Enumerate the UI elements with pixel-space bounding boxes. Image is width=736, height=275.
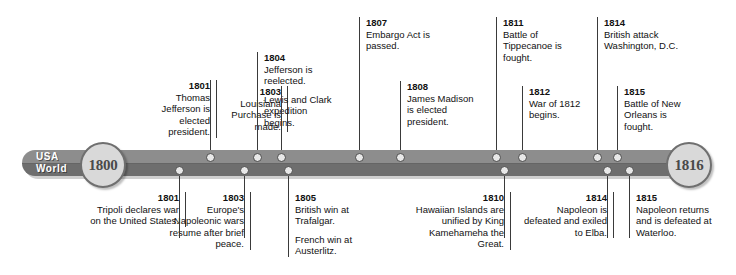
event-year: 1811 — [503, 17, 573, 29]
timeline-bar: USA World 1800 1816 — [22, 150, 702, 176]
event-connector-line — [288, 171, 289, 238]
event-text: Thomas Jefferson is elected president. — [162, 92, 210, 138]
event-paragraph: 1807Embargo Act is passed. — [366, 17, 444, 52]
timeline-tick-dot — [175, 166, 184, 175]
event-text: Europe's Napoleonic wars resume after br… — [170, 204, 244, 250]
event-connector-line — [210, 80, 211, 155]
event-connector-line — [179, 171, 180, 238]
event-year: 1815 — [636, 192, 722, 204]
event-year: 1807 — [366, 17, 444, 29]
timeline-tick-dot — [500, 166, 509, 175]
event-year: 1812 — [529, 86, 591, 98]
event-paragraph: Lewis and Clark expedition begins. — [264, 94, 334, 129]
timeline-event-world-1810: 1810Hawaiian Islands are unified by King… — [406, 192, 511, 250]
timeline-event-usa-1812: 1812War of 1812 begins. — [522, 86, 591, 121]
timeline-event-usa-1811: 1811Battle of Tippecanoe is fought. — [496, 17, 573, 63]
event-text: British win at Trafalgar. — [295, 204, 349, 227]
event-connector-line — [607, 171, 608, 238]
event-connector-line — [400, 81, 401, 155]
event-text: British attack Washington, D.C. — [604, 29, 678, 52]
event-text: Napoleon is defeated and exiled to Elba. — [524, 204, 607, 238]
timeline-figure: 1801Thomas Jefferson is elected presiden… — [0, 0, 736, 275]
event-paragraph: 1814British attack Washington, D.C. — [604, 17, 686, 52]
event-year: 1803 — [162, 192, 244, 204]
event-year: 1805 — [295, 192, 381, 204]
event-paragraph: 1810Hawaiian Islands are unified by King… — [406, 192, 504, 250]
event-paragraph: 1811Battle of Tippecanoe is fought. — [503, 17, 573, 63]
event-paragraph: 1803Europe's Napoleonic wars resume afte… — [162, 192, 244, 250]
event-year: 1814 — [519, 192, 607, 204]
event-year: 1814 — [604, 17, 686, 29]
timeline-tick-dot — [284, 166, 293, 175]
timeline-event-world-1803: 1803Europe's Napoleonic wars resume afte… — [162, 192, 251, 250]
timeline-tick-dot — [240, 166, 249, 175]
timeline-tick-dot — [253, 153, 262, 162]
event-connector-line — [504, 171, 505, 238]
timeline-event-usa-1807: 1807Embargo Act is passed. — [359, 17, 444, 52]
event-paragraph: 1814Napoleon is defeated and exiled to E… — [519, 192, 607, 238]
event-paragraph: 1815Napoleon returns and is defeated at … — [636, 192, 722, 238]
event-paragraph: 1804Jefferson is reelected. — [264, 52, 334, 87]
timeline-tick-dot — [355, 153, 364, 162]
event-connector-line — [629, 171, 630, 238]
event-text: Lewis and Clark expedition begins. — [264, 94, 332, 128]
start-year-label: 1800 — [89, 157, 118, 174]
event-text: James Madison is elected president. — [407, 93, 474, 127]
event-connector-line — [281, 86, 282, 155]
timeline-event-world-1815: 1815Napoleon returns and is defeated at … — [629, 192, 722, 238]
event-paragraph: 1808James Madison is elected president. — [407, 81, 479, 127]
timeline-tick-dot — [593, 153, 602, 162]
event-text: Battle of New Orleans is fought. — [624, 98, 681, 132]
event-text: Embargo Act is passed. — [366, 29, 430, 52]
event-paragraph: 1815Battle of New Orleans is fought. — [624, 86, 686, 132]
event-text: Jefferson is reelected. — [264, 64, 312, 87]
timeline-event-usa-1801: 1801Thomas Jefferson is elected presiden… — [148, 80, 217, 138]
event-year: 1810 — [406, 192, 504, 204]
start-year-badge: 1800 — [80, 142, 126, 188]
end-year-label: 1816 — [675, 157, 704, 174]
event-paragraph: 1805British win at Trafalgar. — [295, 192, 381, 227]
timeline-tick-dot — [206, 153, 215, 162]
event-connector-line — [597, 17, 598, 155]
event-year: 1815 — [624, 86, 686, 98]
event-connector-line — [496, 17, 497, 155]
event-year: 1804 — [264, 52, 334, 64]
timeline-event-usa-1804: 1804Jefferson is reelected.Lewis and Cla… — [257, 52, 334, 128]
timeline-tick-dot — [277, 153, 286, 162]
event-connector-line — [617, 86, 618, 155]
event-connector-line — [257, 52, 258, 155]
timeline-tick-dot — [603, 166, 612, 175]
event-connector-line — [359, 17, 360, 155]
event-year: 1808 — [407, 81, 479, 93]
timeline-tick-dot — [625, 166, 634, 175]
end-year-badge: 1816 — [666, 142, 712, 188]
timeline-tick-dot — [518, 153, 527, 162]
timeline-tick-dot — [492, 153, 501, 162]
timeline-tick-dot — [613, 153, 622, 162]
event-text: Napoleon returns and is defeated at Wate… — [636, 204, 712, 238]
event-text: Battle of Tippecanoe is fought. — [503, 29, 562, 63]
event-text: French win at Austerlitz. — [295, 234, 352, 257]
event-paragraph: 1812War of 1812 begins. — [529, 86, 591, 121]
event-connector-line — [522, 86, 523, 155]
event-connector-line — [244, 171, 245, 238]
timeline-event-world-1805: 1805British win at Trafalgar.French win … — [288, 192, 381, 257]
timeline-event-usa-1808: 1808James Madison is elected president. — [400, 81, 479, 127]
event-paragraph: 1801Thomas Jefferson is elected presiden… — [148, 80, 210, 138]
timeline-event-usa-1815: 1815Battle of New Orleans is fought. — [617, 86, 686, 132]
timeline-event-usa-1814: 1814British attack Washington, D.C. — [597, 17, 686, 52]
event-paragraph: French win at Austerlitz. — [295, 234, 381, 257]
timeline-tick-dot — [396, 153, 405, 162]
timeline-event-world-1814: 1814Napoleon is defeated and exiled to E… — [519, 192, 614, 238]
event-text: Hawaiian Islands are unified by King Kam… — [416, 204, 504, 250]
event-year: 1801 — [148, 80, 210, 92]
event-text: War of 1812 begins. — [529, 98, 580, 121]
